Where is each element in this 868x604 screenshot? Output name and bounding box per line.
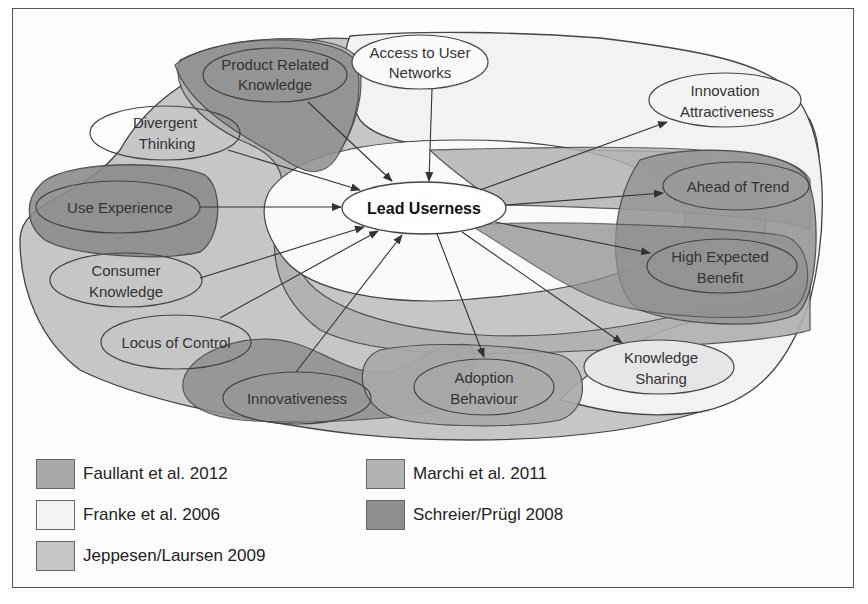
svg-text:Knowledge: Knowledge xyxy=(624,349,698,366)
svg-text:Innovation: Innovation xyxy=(690,82,759,99)
svg-text:Use Experience: Use Experience xyxy=(67,199,173,216)
legend-label: Faullant et al. 2012 xyxy=(83,464,228,484)
svg-text:Adoption: Adoption xyxy=(454,369,513,386)
svg-text:Sharing: Sharing xyxy=(635,370,687,387)
legend-item-marchi-2011: Marchi et al. 2011 xyxy=(366,458,547,490)
svg-text:Networks: Networks xyxy=(389,64,452,81)
legend-item-franke-2006: Franke et al. 2006 xyxy=(36,499,220,531)
svg-text:Knowledge: Knowledge xyxy=(89,283,163,300)
svg-text:Thinking: Thinking xyxy=(139,135,196,152)
legend-label: Franke et al. 2006 xyxy=(83,505,220,525)
svg-text:Benefit: Benefit xyxy=(697,269,745,286)
svg-text:Knowledge: Knowledge xyxy=(238,76,312,93)
legend-swatch xyxy=(36,541,75,571)
legend-item-schreier-pruegl-2008: Schreier/Prügl 2008 xyxy=(366,499,563,531)
svg-text:Ahead of Trend: Ahead of Trend xyxy=(687,178,790,195)
legend-label: Jeppesen/Laursen 2009 xyxy=(83,546,265,566)
node-access-to-user-networks: Access to User Networks xyxy=(352,35,488,89)
legend: Faullant et al. 2012 Franke et al. 2006 … xyxy=(36,458,596,578)
legend-item-jeppesen-laursen-2009: Jeppesen/Laursen 2009 xyxy=(36,540,265,572)
svg-text:Lead Userness: Lead Userness xyxy=(367,200,481,217)
svg-text:Consumer: Consumer xyxy=(91,262,160,279)
legend-label: Marchi et al. 2011 xyxy=(413,464,547,484)
svg-text:Access to User: Access to User xyxy=(370,44,471,61)
node-knowledge-sharing: Knowledge Sharing xyxy=(584,340,734,394)
svg-text:Product Related: Product Related xyxy=(221,56,329,73)
svg-text:Locus of Control: Locus of Control xyxy=(121,334,230,351)
svg-text:Innovativeness: Innovativeness xyxy=(247,390,347,407)
legend-swatch xyxy=(36,500,75,530)
legend-label: Schreier/Prügl 2008 xyxy=(413,505,563,525)
legend-swatch xyxy=(366,459,405,489)
legend-swatch xyxy=(36,459,75,489)
svg-text:Behaviour: Behaviour xyxy=(450,390,518,407)
legend-item-faullant-2012: Faullant et al. 2012 xyxy=(36,458,228,490)
svg-text:High Expected: High Expected xyxy=(671,248,769,265)
svg-text:Attractiveness: Attractiveness xyxy=(680,103,774,120)
node-innovation-attractiveness: Innovation Attractiveness xyxy=(649,73,801,127)
legend-swatch xyxy=(366,500,405,530)
svg-text:Divergent: Divergent xyxy=(133,114,198,131)
